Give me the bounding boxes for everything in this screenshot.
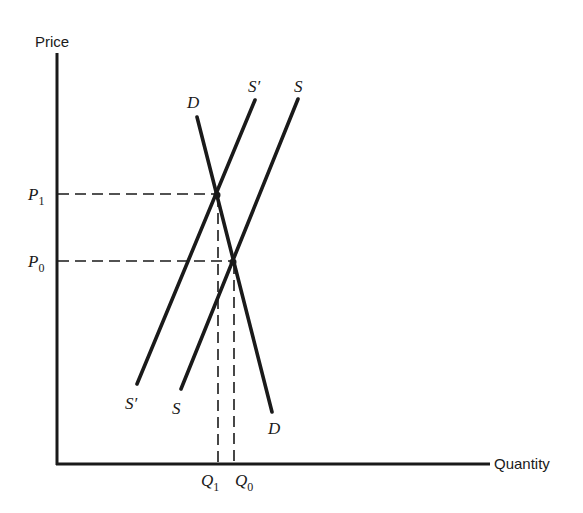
label-q0: Q0 bbox=[235, 471, 253, 494]
curve-labels: D D S′ S′ S S bbox=[125, 77, 303, 438]
label-s-prime-bottom: S′ bbox=[125, 394, 138, 413]
supply-curve-s-prime bbox=[137, 100, 255, 384]
label-s-prime-top: S′ bbox=[248, 77, 261, 96]
label-p0: P0 bbox=[27, 252, 44, 275]
label-q0-sub: 0 bbox=[247, 480, 253, 494]
x-axis-label: Quantity bbox=[494, 455, 550, 472]
label-d-top: D bbox=[186, 93, 200, 112]
label-q1-sub: 1 bbox=[213, 480, 219, 494]
label-p1: P1 bbox=[27, 185, 44, 208]
label-p0-main: P bbox=[27, 252, 38, 271]
equilibrium-guides bbox=[58, 194, 234, 463]
axes: Price Quantity bbox=[35, 33, 550, 472]
y-axis-label: Price bbox=[35, 33, 69, 50]
label-q1-main: Q bbox=[201, 471, 213, 490]
new-equilibrium-point bbox=[214, 192, 221, 199]
original-equilibrium-point bbox=[230, 259, 237, 266]
label-q1: Q1 bbox=[201, 471, 219, 494]
supply-demand-diagram: Price Quantity D D S′ S′ S S P1 P0 bbox=[0, 0, 583, 513]
label-d-bottom: D bbox=[267, 419, 281, 438]
label-p0-sub: 0 bbox=[38, 261, 44, 275]
label-p1-sub: 1 bbox=[38, 194, 44, 208]
label-s-top: S bbox=[294, 77, 303, 96]
label-s-bottom: S bbox=[172, 399, 181, 418]
supply-curve-s bbox=[181, 99, 298, 389]
price-labels: P1 P0 bbox=[27, 185, 44, 275]
quantity-labels: Q1 Q0 bbox=[201, 471, 253, 494]
label-p1-main: P bbox=[27, 185, 38, 204]
label-q0-main: Q bbox=[235, 471, 247, 490]
